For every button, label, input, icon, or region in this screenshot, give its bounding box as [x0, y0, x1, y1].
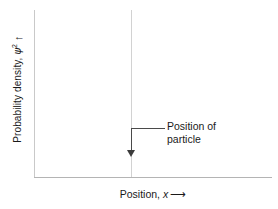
- psi-symbol: ψ: [12, 48, 23, 55]
- right-arrow-icon: ⟶: [168, 188, 186, 200]
- y-axis-label: Probability density, ψ2↑: [11, 35, 23, 142]
- y-axis-label-text: Probability density,: [12, 55, 23, 143]
- y-axis-line: [34, 10, 35, 178]
- annotation-leader-stem: [131, 128, 132, 152]
- annotation-label-line2: particle: [167, 133, 216, 146]
- annotation-label-line1: Position of: [167, 120, 216, 133]
- up-arrow-icon: ↑: [12, 35, 24, 44]
- x-axis-line: [34, 177, 272, 178]
- annotation-label: Position of particle: [167, 120, 216, 146]
- y-axis-label-container: Probability density, ψ2↑: [0, 0, 34, 178]
- x-axis-label: Position, x⟶: [34, 188, 272, 201]
- x-axis-label-text: Position,: [120, 188, 163, 200]
- probability-density-figure: Position of particle Probability density…: [0, 0, 278, 209]
- down-arrow-icon: [127, 150, 135, 157]
- y-axis-label-exponent: 2: [11, 44, 18, 48]
- annotation-leader-line: [131, 128, 165, 129]
